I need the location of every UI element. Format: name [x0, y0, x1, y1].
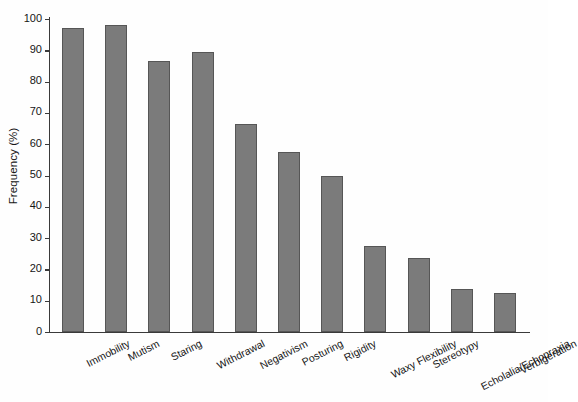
bar — [321, 176, 343, 333]
y-axis-tick-label: 50 — [30, 168, 42, 180]
y-axis-tick-label: 90 — [30, 43, 42, 55]
y-axis-title: Frequency (%) — [2, 0, 24, 332]
x-axis-tick-label: Negativism — [257, 337, 309, 371]
y-axis-tick-mark — [45, 332, 50, 333]
bar — [192, 52, 214, 332]
bar — [278, 152, 300, 332]
x-axis-tick-label: Staring — [169, 337, 204, 363]
bar — [364, 246, 386, 332]
bar — [494, 293, 516, 332]
bar — [408, 258, 430, 332]
plot-area — [49, 19, 530, 332]
x-axis-tick-label: Mutism — [126, 337, 162, 363]
bar — [148, 61, 170, 332]
y-axis-tick-label: 30 — [30, 231, 42, 243]
y-axis-tick-label: 100 — [24, 12, 42, 24]
y-axis-tick-label: 20 — [30, 262, 42, 274]
x-axis-tick-label: Rigidity — [342, 337, 378, 363]
y-axis-tick-label: 60 — [30, 137, 42, 149]
y-axis-tick-label: 10 — [30, 293, 42, 305]
y-axis-tick-label: 70 — [30, 105, 42, 117]
x-axis-tick-label: Withdrawal — [214, 337, 266, 371]
bar — [105, 25, 127, 332]
y-axis-title-text: Frequency (%) — [7, 128, 19, 205]
y-axis-tick-label: 80 — [30, 74, 42, 86]
y-axis-tick-label: 0 — [36, 325, 42, 337]
y-axis-tick-label: 40 — [30, 199, 42, 211]
x-axis-tick-label: Immobility — [84, 337, 132, 369]
bar — [451, 289, 473, 332]
bar — [235, 124, 257, 332]
bar — [62, 28, 84, 332]
